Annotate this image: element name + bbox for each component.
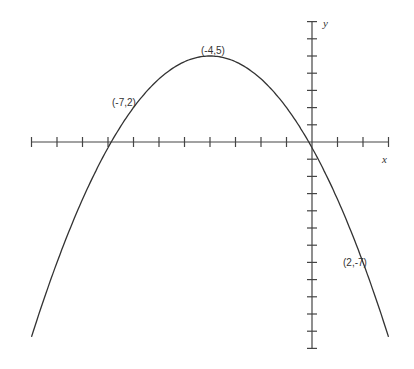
x-axis-label: x [382, 153, 387, 165]
vertex-annotation: (-4,5) [201, 45, 225, 56]
parabola-curve [32, 56, 389, 337]
point-annotation-left: (-7,2) [112, 97, 136, 108]
y-axis-label: y [323, 17, 328, 29]
point-annotation-right: (2,-7) [343, 257, 367, 268]
